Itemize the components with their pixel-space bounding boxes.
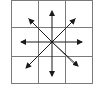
arrow-up-right-icon xyxy=(52,19,75,42)
direction-grid-diagram xyxy=(0,0,96,92)
arrows xyxy=(21,11,82,76)
arrow-up-left-icon xyxy=(29,19,52,42)
center-point xyxy=(51,41,54,44)
